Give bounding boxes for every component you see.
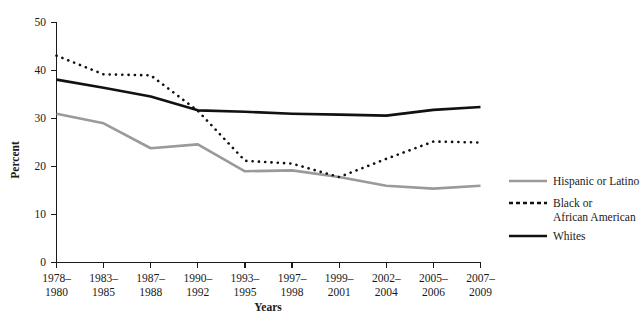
x-tick-label-line1: 1999– — [325, 272, 354, 284]
x-axis-title: Years — [254, 301, 282, 313]
x-tick-label-line2: 1980 — [45, 286, 68, 298]
x-tick-label-line2: 1988 — [139, 286, 162, 298]
y-tick-label-0: 0 — [40, 256, 46, 268]
y-axis-ticks — [51, 23, 56, 263]
x-tick-label-line1: 2002– — [372, 272, 401, 284]
legend-label-1-line2: African American — [553, 211, 636, 223]
x-tick-label-line2: 1998 — [281, 286, 304, 298]
legend-label-1: Black or — [553, 197, 592, 209]
y-tick-label-20: 20 — [35, 160, 47, 172]
chart-figure: 0 10 20 30 40 50 Percent 1978–19801983–1… — [0, 0, 643, 324]
series-line-0 — [57, 114, 481, 189]
x-tick-label-line1: 2005– — [419, 272, 448, 284]
x-tick-label-line1: 1997– — [278, 272, 307, 284]
y-tick-label-10: 10 — [35, 208, 47, 220]
x-tick-label-line1: 1983– — [89, 272, 118, 284]
legend-label-2: Whites — [553, 230, 586, 242]
line-chart-svg: 0 10 20 30 40 50 Percent 1978–19801983–1… — [0, 0, 643, 324]
chart-legend: Hispanic or LatinoBlack orAfrican Americ… — [509, 175, 639, 242]
x-tick-label-line1: 1978– — [42, 272, 71, 284]
data-series-layer — [57, 56, 481, 189]
y-tick-label-50: 50 — [35, 16, 47, 28]
x-tick-label-line1: 1990– — [183, 272, 212, 284]
x-tick-label-line2: 2001 — [328, 286, 351, 298]
series-line-1 — [57, 56, 481, 177]
x-axis-tick-labels: 1978–19801983–19851987–19881990–19921993… — [42, 272, 495, 298]
x-tick-label-line1: 1987– — [136, 272, 165, 284]
x-tick-label-line2: 2004 — [375, 286, 398, 298]
y-tick-label-40: 40 — [35, 64, 47, 76]
y-tick-label-30: 30 — [35, 112, 47, 124]
x-tick-label-line2: 2009 — [469, 286, 492, 298]
y-axis-title: Percent — [9, 141, 21, 179]
x-tick-label-line2: 2006 — [422, 286, 445, 298]
x-tick-label-line1: 1993– — [231, 272, 260, 284]
x-tick-label-line2: 1992 — [186, 286, 209, 298]
legend-label-0: Hispanic or Latino — [553, 175, 639, 188]
x-tick-label-line2: 1985 — [92, 286, 115, 298]
x-tick-label-line1: 2007– — [466, 272, 495, 284]
x-axis-ticks — [57, 263, 481, 268]
series-line-2 — [57, 80, 481, 116]
x-tick-label-line2: 1995 — [233, 286, 256, 298]
